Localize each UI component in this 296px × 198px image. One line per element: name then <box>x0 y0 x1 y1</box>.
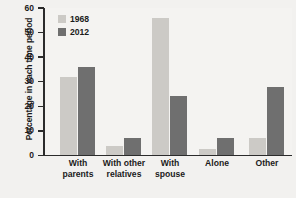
y-tick-mark <box>38 81 44 82</box>
legend-item-1968: 1968 <box>58 13 89 24</box>
legend-swatch-1968 <box>58 15 66 23</box>
x-label-line: spouse <box>155 169 185 179</box>
bar-2012-with-other-relatives <box>124 138 141 155</box>
bar-1968-with-other-relatives <box>106 146 123 156</box>
bar-group <box>152 8 188 155</box>
y-tick-mark <box>38 32 44 33</box>
bar-1968-other <box>249 138 266 155</box>
bar-2012-with-spouse <box>170 96 187 155</box>
y-tick-label: 0 <box>8 150 34 160</box>
bar-group <box>106 8 142 155</box>
y-tick-mark <box>38 7 44 8</box>
x-axis-label: Other <box>235 158 296 169</box>
x-label-line: Other <box>256 158 279 168</box>
x-label-line: parents <box>62 169 93 179</box>
y-tick-label: 40 <box>8 52 34 62</box>
y-tick-mark <box>38 155 44 156</box>
legend-label-2012: 2012 <box>70 27 89 37</box>
x-label-line: relatives <box>107 169 142 179</box>
bar-2012-alone <box>217 138 234 155</box>
y-tick-label: 10 <box>8 125 34 135</box>
bar-2012-other <box>267 87 284 156</box>
legend-swatch-2012 <box>58 28 66 36</box>
legend-item-2012: 2012 <box>58 26 89 37</box>
y-tick-mark <box>38 130 44 131</box>
bar-group <box>199 8 235 155</box>
y-tick-mark <box>38 106 44 107</box>
bar-1968-with-spouse <box>152 18 169 156</box>
y-tick-label: 20 <box>8 101 34 111</box>
y-tick-mark <box>38 56 44 57</box>
x-label-line: With <box>161 158 180 168</box>
legend: 1968 2012 <box>58 13 89 39</box>
bar-2012-with-parents <box>78 67 95 155</box>
x-label-line: With <box>69 158 88 168</box>
y-tick-label: 50 <box>8 27 34 37</box>
bar-group <box>249 8 285 155</box>
bar-1968-with-parents <box>60 77 77 156</box>
bar-chart: Percentage in each time period 010203040… <box>0 0 296 198</box>
legend-label-1968: 1968 <box>70 14 89 24</box>
x-label-line: Alone <box>205 158 229 168</box>
bar-1968-alone <box>199 149 216 155</box>
y-tick-label: 30 <box>8 76 34 86</box>
y-tick-label: 60 <box>8 3 34 13</box>
